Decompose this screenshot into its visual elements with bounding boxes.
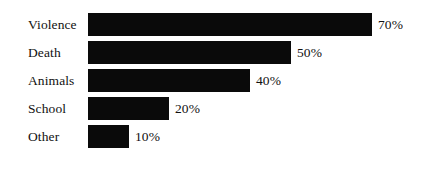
bar-track: 40% xyxy=(88,69,431,92)
bar-track: 20% xyxy=(88,97,431,120)
category-label-school: School xyxy=(28,97,66,120)
value-label-violence: 70% xyxy=(378,13,403,36)
bar-row: School 20% xyxy=(0,97,431,120)
bar-animals xyxy=(88,69,250,92)
bar-track: 50% xyxy=(88,41,431,64)
chart-plot-area: Violence 70% Death 50% Animals 40% Schoo… xyxy=(0,0,431,179)
bar-violence xyxy=(88,13,372,36)
bar-track: 70% xyxy=(88,13,431,36)
category-label-death: Death xyxy=(28,41,61,64)
category-label-violence: Violence xyxy=(28,13,77,36)
bar-row: Animals 40% xyxy=(0,69,431,92)
bar-track: 10% xyxy=(88,125,431,148)
value-label-other: 10% xyxy=(135,125,160,148)
bar-chart: Violence 70% Death 50% Animals 40% Schoo… xyxy=(0,0,431,179)
category-label-other: Other xyxy=(28,125,59,148)
value-label-animals: 40% xyxy=(256,69,281,92)
bar-school xyxy=(88,97,169,120)
bar-row: Violence 70% xyxy=(0,13,431,36)
bar-row: Other 10% xyxy=(0,125,431,148)
value-label-school: 20% xyxy=(175,97,200,120)
value-label-death: 50% xyxy=(297,41,322,64)
bar-death xyxy=(88,41,291,64)
category-label-animals: Animals xyxy=(28,69,74,92)
bar-other xyxy=(88,125,129,148)
bar-row: Death 50% xyxy=(0,41,431,64)
